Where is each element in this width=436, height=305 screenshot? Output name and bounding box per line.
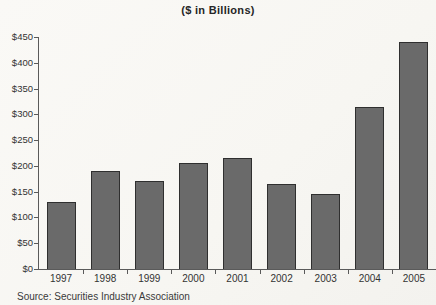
bar-1999 (135, 181, 164, 269)
y-tick (34, 217, 38, 218)
source-note: Source: Securities Industry Association (17, 291, 190, 302)
y-tick-label: $0 (0, 264, 33, 274)
y-tick (34, 269, 38, 270)
y-tick-label: $150 (0, 187, 33, 197)
x-tick-label: 1998 (83, 273, 127, 284)
bar-slot (127, 37, 171, 269)
chart-figure: ($ in Billions) $450$400$350$300$250$200… (0, 0, 436, 305)
x-tick-label: 2004 (348, 273, 392, 284)
x-tick-label: 1999 (127, 273, 171, 284)
bar-2003 (311, 194, 340, 269)
bar-1997 (47, 202, 76, 269)
y-tick (34, 89, 38, 90)
y-tick-label: $50 (0, 238, 33, 248)
y-tick-label: $300 (0, 109, 33, 119)
bar-slot (39, 37, 83, 269)
bar-slot (83, 37, 127, 269)
x-tick-label: 2005 (392, 273, 436, 284)
x-tick-label: 2000 (171, 273, 215, 284)
x-tick-label: 2003 (304, 273, 348, 284)
bar-2004 (355, 107, 384, 269)
x-axis-line (34, 269, 436, 270)
y-tick (34, 192, 38, 193)
bar-slot (392, 37, 436, 269)
x-axis-labels: 199719981999200020012002200320042005 (39, 273, 436, 284)
chart-title: ($ in Billions) (0, 4, 436, 16)
bar-slot (304, 37, 348, 269)
y-tick (34, 114, 38, 115)
y-tick-label: $350 (0, 84, 33, 94)
bar-2005 (399, 42, 428, 269)
bar-2002 (267, 184, 296, 269)
bar-2000 (179, 163, 208, 269)
y-tick (34, 37, 38, 38)
bar-slot (215, 37, 259, 269)
y-tick-label: $100 (0, 212, 33, 222)
bar-slot (171, 37, 215, 269)
bar-2001 (223, 158, 252, 269)
y-tick (34, 243, 38, 244)
y-tick (34, 140, 38, 141)
y-tick (34, 166, 38, 167)
y-tick-label: $250 (0, 135, 33, 145)
bar-slot (348, 37, 392, 269)
y-tick-label: $400 (0, 58, 33, 68)
x-tick-label: 2002 (260, 273, 304, 284)
bar-series (39, 37, 436, 269)
x-tick-label: 2001 (215, 273, 259, 284)
y-tick-label: $450 (0, 32, 33, 42)
bar-slot (260, 37, 304, 269)
x-tick-label: 1997 (39, 273, 83, 284)
bar-1998 (91, 171, 120, 269)
y-tick (34, 63, 38, 64)
y-tick-label: $200 (0, 161, 33, 171)
